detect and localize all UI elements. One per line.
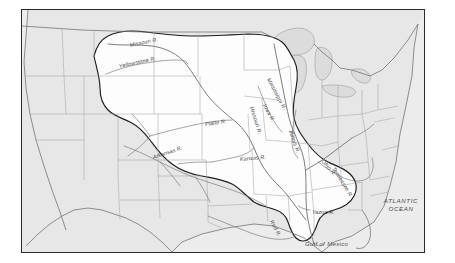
ocean-label-atlantic: ATLANTIC OCEAN	[377, 198, 425, 212]
map-frame: Missouri R. Yellowstone R. Platte R. Mis…	[21, 9, 425, 253]
map-graphic	[22, 10, 424, 252]
ocean-label-atlantic-line1: ATLANTIC	[377, 198, 425, 204]
sea-label-gulf-of-mexico: Gulf of Mexico	[305, 241, 348, 247]
river-label-yazoo: Yazoo R.	[312, 210, 335, 215]
map-figure: Missouri R. Yellowstone R. Platte R. Mis…	[0, 0, 455, 263]
ocean-label-atlantic-line2: OCEAN	[377, 206, 425, 212]
